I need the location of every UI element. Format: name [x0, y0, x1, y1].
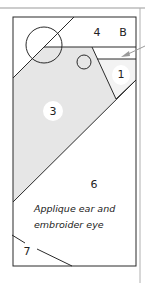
- seam-line-piece-7-a: [12, 235, 25, 243]
- quilt-pattern-diagram: 4 B 1 3 6 7 Applique ear and embroider e…: [0, 0, 145, 283]
- piece-6-label: 6: [91, 178, 98, 191]
- block-letter-label: B: [119, 26, 127, 39]
- direction-arrow-head-icon: [121, 51, 130, 57]
- piece-1-label: 1: [118, 68, 125, 81]
- piece-4-label: 4: [94, 26, 101, 39]
- instruction-note-line-2: embroider eye: [34, 219, 104, 230]
- seam-line-piece-7-b: [37, 249, 72, 266]
- piece-3-label: 3: [50, 105, 57, 118]
- piece-7-label: 7: [24, 245, 31, 258]
- instruction-note-line-1: Applique ear and: [33, 203, 116, 214]
